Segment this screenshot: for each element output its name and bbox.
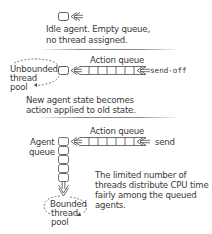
send-incoming-arrow-icon xyxy=(137,138,150,146)
sendoff-agent-arrow-icon xyxy=(71,67,82,75)
separator-2 xyxy=(36,117,180,118)
idle-agent-box xyxy=(59,13,69,21)
agent-queue-label-line2: queue xyxy=(29,147,55,157)
agent-queue-down-arrow-icon xyxy=(59,182,69,196)
send-caption-line4: agents. xyxy=(95,200,126,210)
sendoff-dispatch-label: send-off xyxy=(150,66,187,75)
sendoff-caption-line2: action applied to old state. xyxy=(26,105,136,115)
send-agent-arrow-icon xyxy=(71,138,82,146)
send-queue-label: Action queue xyxy=(90,126,144,136)
separator-1 xyxy=(40,49,180,50)
sendoff-action-queue xyxy=(80,67,146,75)
sendoff-incoming-arrow-icon xyxy=(137,67,150,75)
sendoff-caption-line1: New agent state becomes xyxy=(26,95,134,105)
send-caption-line3: fairly among the queued xyxy=(95,190,197,200)
idle-caption-line1: Idle agent. Empty queue, xyxy=(46,24,150,34)
pool-arrowhead-icon xyxy=(34,83,37,87)
send-caption-line2: threads distribute CPU time xyxy=(95,180,209,190)
sendoff-queue-label: Action queue xyxy=(90,55,144,65)
send-dispatch-label: send xyxy=(155,137,175,147)
idle-caption-line2: no thread assigned. xyxy=(46,35,128,45)
send-action-queue xyxy=(80,138,146,146)
bounded-pool-label-line3: pool xyxy=(51,217,69,227)
agent-queue-label-line1: Agent xyxy=(30,137,54,147)
agent-queue-stack xyxy=(59,138,69,182)
send-caption-line1: The limited number of xyxy=(95,170,186,180)
idle-arrow-icon xyxy=(71,13,83,21)
unbounded-pool-label-line3: pool xyxy=(10,82,28,92)
sendoff-agent-box xyxy=(59,67,69,75)
